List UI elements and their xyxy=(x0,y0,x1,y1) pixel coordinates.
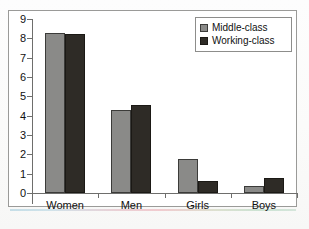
y-tick-1 xyxy=(27,174,33,175)
y-axis-line xyxy=(32,19,33,204)
y-tick-3 xyxy=(27,135,33,136)
bar-girls-working-class xyxy=(198,181,218,193)
y-tick-5 xyxy=(27,96,33,97)
y-tick-label-5: 5 xyxy=(6,91,26,102)
legend-swatch-middle-class-icon xyxy=(200,24,208,32)
y-tick-label-0: 0 xyxy=(6,188,26,199)
bar-chart: 0123456789 WomenMenGirlsBoys Middle-clas… xyxy=(8,10,297,207)
bar-men-working-class xyxy=(131,105,151,193)
legend-label-working-class: Working-class xyxy=(212,36,275,46)
y-tick-9 xyxy=(27,19,33,20)
y-tick-label-8: 8 xyxy=(6,33,26,44)
bar-women-middle-class xyxy=(45,33,65,193)
x-tick-separator-2 xyxy=(165,193,166,198)
y-tick-label-7: 7 xyxy=(6,53,26,64)
y-tick-2 xyxy=(27,154,33,155)
legend-item-working-class: Working-class xyxy=(200,34,287,47)
x-tick-separator-1 xyxy=(98,193,99,198)
x-tick-separator-3 xyxy=(231,193,232,198)
x-label-men: Men xyxy=(98,200,164,211)
y-tick-4 xyxy=(27,116,33,117)
bar-men-middle-class xyxy=(111,110,131,193)
bar-women-working-class xyxy=(65,34,85,193)
bar-boys-middle-class xyxy=(244,186,264,193)
y-tick-label-2: 2 xyxy=(6,149,26,160)
y-tick-7 xyxy=(27,58,33,59)
legend-item-middle-class: Middle-class xyxy=(200,21,287,34)
y-tick-label-9: 9 xyxy=(6,14,26,25)
y-tick-label-4: 4 xyxy=(6,111,26,122)
x-label-boys: Boys xyxy=(231,200,297,211)
x-label-women: Women xyxy=(32,200,98,211)
bar-girls-middle-class xyxy=(178,159,198,193)
bar-boys-working-class xyxy=(264,178,284,193)
chart-legend: Middle-class Working-class xyxy=(195,17,292,52)
x-tick-separator-end xyxy=(297,193,298,198)
y-tick-label-6: 6 xyxy=(6,72,26,83)
y-tick-8 xyxy=(27,38,33,39)
y-tick-label-1: 1 xyxy=(6,169,26,180)
y-tick-0 xyxy=(27,193,33,194)
y-tick-label-3: 3 xyxy=(6,130,26,141)
legend-label-middle-class: Middle-class xyxy=(212,23,268,33)
x-label-girls: Girls xyxy=(165,200,231,211)
y-tick-6 xyxy=(27,77,33,78)
legend-swatch-working-class-icon xyxy=(200,37,208,45)
